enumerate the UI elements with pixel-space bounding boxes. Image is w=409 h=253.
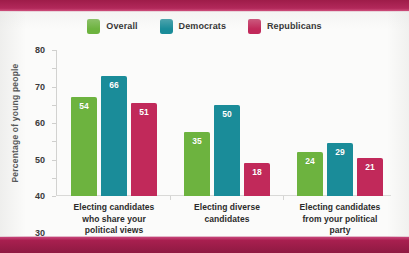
x-axis-category-line: Electing candidates [58, 202, 170, 214]
x-axis-category-line: candidates [171, 214, 283, 226]
legend-item-republicans[interactable]: Republicans [248, 19, 322, 34]
decorative-top-band [0, 0, 409, 11]
legend-item-democrats[interactable]: Democrats [160, 19, 226, 34]
bar-democrats[interactable]: 66 [101, 76, 127, 196]
bar-value-label: 21 [357, 162, 383, 172]
y-axis-title: Percentage of young people [9, 50, 21, 196]
x-axis-category-line: from your political [284, 214, 396, 226]
y-tick-label: 50 [35, 155, 45, 165]
bar-democrats[interactable]: 50 [214, 105, 240, 196]
y-tick-mark: 30 [52, 141, 56, 142]
legend-item-overall[interactable]: Overall [87, 19, 137, 34]
bar-republicans[interactable]: 18 [244, 163, 270, 196]
x-axis-category-line: who share your [58, 214, 170, 226]
bar-overall[interactable]: 24 [297, 152, 323, 196]
x-axis-category-line: party [284, 225, 396, 237]
bar-group-bars: 355018 [175, 50, 279, 196]
bar-republicans[interactable]: 21 [357, 158, 383, 196]
chart-legend: OverallDemocratsRepublicans [0, 16, 409, 36]
bar-group: 355018Electing diversecandidates [175, 50, 279, 196]
bar-value-label: 51 [131, 107, 157, 117]
y-tick-mark: 20 [52, 160, 56, 161]
bar-value-label: 35 [184, 136, 210, 146]
plot-area: 80706050403020100 546651Electing candida… [56, 50, 391, 196]
bar-group: 546651Electing candidateswho share yourp… [62, 50, 166, 196]
legend-label: Democrats [179, 21, 226, 31]
y-axis-title-label: Percentage of young people [10, 63, 20, 182]
y-tick-mark: 10 [52, 178, 56, 179]
bar-group: 242921Electing candidatesfrom your polit… [288, 50, 392, 196]
legend-swatch-republicans-icon [248, 19, 261, 34]
legend-swatch-democrats-icon [160, 19, 173, 34]
y-tick-label: 80 [35, 45, 45, 55]
y-axis-line [56, 50, 57, 196]
x-axis-category-line: political views [58, 225, 170, 237]
x-axis-group-separator-tick [170, 196, 171, 200]
bar-democrats[interactable]: 29 [327, 143, 353, 196]
y-tick-mark: 80 [52, 50, 56, 51]
y-tick-mark: 60 [52, 87, 56, 88]
bar-value-label: 18 [244, 167, 270, 177]
scanned-page: OverallDemocratsRepublicans Percentage o… [0, 0, 409, 253]
y-tick-mark: 50 [52, 105, 56, 106]
bar-group-bars: 242921 [288, 50, 392, 196]
y-tick-mark: 40 [52, 123, 56, 124]
y-tick-label: 60 [35, 118, 45, 128]
x-axis-group-separator-tick [283, 196, 284, 200]
bar-group-bars: 546651 [62, 50, 166, 196]
x-axis-category-line: Electing candidates [284, 202, 396, 214]
bar-value-label: 29 [327, 147, 353, 157]
grouped-bar-chart: OverallDemocratsRepublicans Percentage o… [0, 11, 409, 237]
bar-overall[interactable]: 35 [184, 132, 210, 196]
decorative-bottom-band [0, 237, 409, 253]
legend-label: Republicans [267, 21, 322, 31]
bar-value-label: 66 [101, 80, 127, 90]
bar-value-label: 54 [71, 101, 97, 111]
bar-republicans[interactable]: 51 [131, 103, 157, 196]
y-tick-mark: 70 [52, 68, 56, 69]
bar-overall[interactable]: 54 [71, 97, 97, 196]
bar-value-label: 50 [214, 109, 240, 119]
y-tick-label: 40 [35, 191, 45, 201]
legend-swatch-overall-icon [87, 19, 100, 34]
bar-value-label: 24 [297, 156, 323, 166]
x-axis-category-label: Electing diversecandidates [171, 202, 283, 225]
y-tick-label: 70 [35, 82, 45, 92]
y-tick-mark: 0 [52, 196, 56, 197]
legend-label: Overall [106, 21, 137, 31]
x-axis-category-label: Electing candidatesfrom your politicalpa… [284, 202, 396, 237]
x-axis-category-label: Electing candidateswho share yourpolitic… [58, 202, 170, 237]
x-axis-category-line: Electing diverse [171, 202, 283, 214]
